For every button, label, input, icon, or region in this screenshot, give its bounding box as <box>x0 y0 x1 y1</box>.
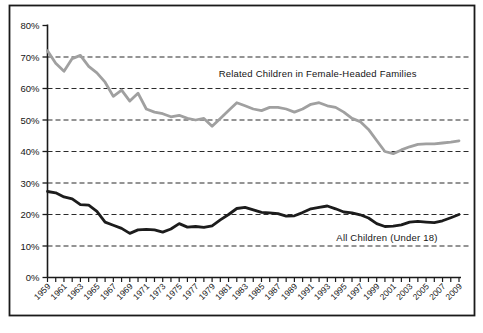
y-tick-label: 50% <box>20 115 40 126</box>
y-tick-label: 20% <box>20 209 40 220</box>
y-tick-label: 80% <box>20 20 40 31</box>
y-tick-label: 10% <box>20 241 40 252</box>
y-tick-label: 40% <box>20 146 40 157</box>
y-tick-label: 30% <box>20 178 40 189</box>
series-label-related-children-female-headed-families: Related Children in Female-Headed Famili… <box>219 68 417 79</box>
y-tick-label: 60% <box>20 83 40 94</box>
y-tick-label: 0% <box>26 272 40 283</box>
chart-canvas: 0%10%20%30%40%50%60%70%80%19591961196319… <box>0 0 483 333</box>
y-tick-label: 70% <box>20 52 40 63</box>
poverty-rate-line-chart: 0%10%20%30%40%50%60%70%80%19591961196319… <box>0 0 483 333</box>
chart-frame-border <box>10 6 475 316</box>
series-label-all-children-under-18: All Children (Under 18) <box>336 232 437 243</box>
